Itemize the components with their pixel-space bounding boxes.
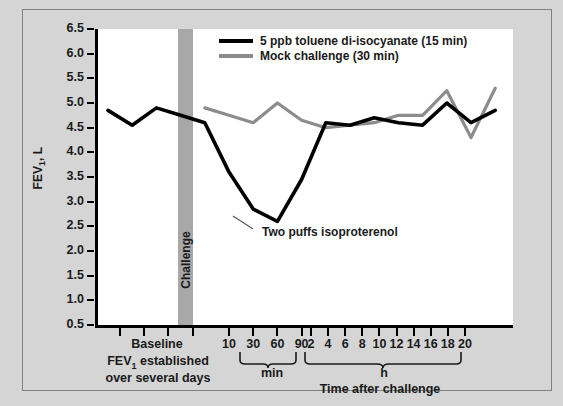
y-tick-label-text: 3.0	[52, 195, 84, 208]
x-tick-mark	[167, 328, 169, 336]
y-tick-label-text: 3.5	[52, 170, 84, 183]
legend-item-mock: Mock challenge (30 min)	[219, 48, 467, 63]
x-tick-mark	[301, 328, 303, 336]
x-tick-mark	[447, 328, 449, 336]
y-tick-mark	[87, 28, 94, 30]
x-tick-mark	[430, 328, 432, 336]
y-tick-label: 2.5	[44, 219, 84, 233]
y-axis-title: FEV1, L	[31, 113, 47, 223]
x-tick-mark	[464, 328, 466, 336]
x-tick-mark	[327, 328, 329, 336]
y-tick-label-text: 2.5	[52, 219, 84, 232]
x-tick-mark	[344, 328, 346, 336]
y-tick-label-text: 4.0	[52, 145, 84, 158]
y-tick-mark	[87, 102, 94, 104]
legend-label-mock: Mock challenge (30 min)	[260, 49, 399, 63]
y-tick-label: 5.5	[44, 71, 84, 85]
figure-container: Challenge 6.56.05.55.04.54.03.53.02.52.0…	[0, 0, 563, 406]
x-tick-mark	[413, 328, 415, 336]
hours-group-label: h	[374, 366, 394, 380]
y-tick-mark	[87, 77, 94, 79]
y-tick-label-text: 5.5	[52, 71, 84, 84]
y-tick-mark	[87, 275, 94, 277]
y-tick-label: 4.0	[44, 145, 84, 159]
x-tick-mark	[143, 328, 145, 336]
legend-label-tdi: 5 ppb toluene di-isocyanate (15 min)	[260, 34, 467, 48]
plot-area	[97, 29, 513, 325]
y-tick-label: 6.0	[44, 47, 84, 61]
y-tick-label: 3.5	[44, 170, 84, 184]
y-tick-mark	[87, 250, 94, 252]
legend-item-tdi: 5 ppb toluene di-isocyanate (15 min)	[219, 33, 467, 48]
y-tick-label: 4.5	[44, 121, 84, 135]
y-axis-spine	[95, 29, 98, 326]
legend: 5 ppb toluene di-isocyanate (15 min) Moc…	[219, 33, 467, 63]
legend-swatch-mock	[219, 54, 253, 58]
y-tick-label-text: 5.0	[52, 96, 84, 109]
baseline-label: Baseline	[96, 337, 218, 351]
y-tick-mark	[87, 151, 94, 153]
challenge-band-label: Challenge	[179, 225, 193, 295]
y-tick-mark	[87, 127, 94, 129]
x-axis-spine	[95, 325, 513, 328]
y-tick-label: 1.5	[44, 269, 84, 283]
x-tick-mark	[378, 328, 380, 336]
y-tick-label: 2.0	[44, 244, 84, 258]
y-tick-mark	[87, 176, 94, 178]
y-tick-mark	[87, 324, 94, 326]
y-axis-title-suffix: , L	[31, 147, 45, 161]
y-tick-label-text: 1.0	[52, 293, 84, 306]
y-tick-label-text: 1.5	[52, 269, 84, 282]
y-tick-mark	[87, 53, 94, 55]
baseline-sublabel-pre: FEV	[107, 354, 131, 368]
y-tick-mark	[87, 201, 94, 203]
x-tick-label: 20	[450, 337, 480, 351]
minutes-group-label: min	[252, 366, 292, 380]
y-tick-mark	[87, 299, 94, 301]
x-tick-mark	[252, 328, 254, 336]
y-tick-label-text: 6.5	[52, 22, 84, 35]
y-tick-mark	[87, 225, 94, 227]
x-axis-title: Time after challenge	[290, 382, 470, 396]
annotation-isoproterenol: Two puffs isoproterenol	[262, 225, 398, 239]
y-tick-label: 0.5	[44, 318, 84, 332]
x-tick-mark	[276, 328, 278, 336]
y-tick-label: 1.0	[44, 293, 84, 307]
x-tick-mark	[361, 328, 363, 336]
legend-swatch-tdi	[219, 39, 253, 43]
y-axis-title-sub: 1	[37, 161, 47, 166]
y-axis-title-text: FEV	[31, 166, 45, 189]
x-tick-mark	[228, 328, 230, 336]
baseline-sublabel-post: established	[137, 354, 209, 368]
x-tick-mark	[396, 328, 398, 336]
x-tick-mark	[310, 328, 312, 336]
x-tick-mark	[192, 328, 194, 336]
x-tick-mark	[119, 328, 121, 336]
y-tick-label: 5.0	[44, 96, 84, 110]
y-tick-label-text: 6.0	[52, 47, 84, 60]
y-tick-label-text: 0.5	[52, 318, 84, 331]
y-tick-label-text: 2.0	[52, 244, 84, 257]
baseline-sublabel-line1: FEV1 established	[78, 354, 238, 371]
y-tick-label-text: 4.5	[52, 121, 84, 134]
y-tick-label: 3.0	[44, 195, 84, 209]
y-tick-label: 6.5	[44, 22, 84, 36]
baseline-sublabel-line2: over several days	[78, 371, 238, 385]
